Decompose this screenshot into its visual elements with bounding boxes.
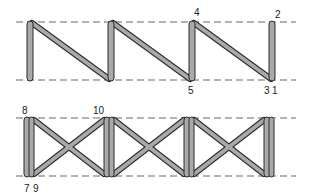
point-label-3: 3 <box>264 85 270 96</box>
point-label-7: 7 <box>24 183 30 194</box>
top-panel: 4 2 5 3 1 <box>16 7 296 96</box>
point-label-4: 4 <box>194 7 200 18</box>
point-label-9: 9 <box>33 183 39 194</box>
point-label-2: 2 <box>275 9 281 20</box>
point-label-1: 1 <box>272 85 278 96</box>
point-label-8: 8 <box>22 105 28 116</box>
bottom-panel: 8 10 7 9 <box>16 105 296 194</box>
stitch-diagram: 4 2 5 3 1 <box>0 0 309 196</box>
point-label-10: 10 <box>93 105 105 116</box>
point-label-5: 5 <box>188 85 194 96</box>
diagonal-stitches-fill <box>32 23 271 79</box>
cross-stitches-fill <box>34 120 264 174</box>
